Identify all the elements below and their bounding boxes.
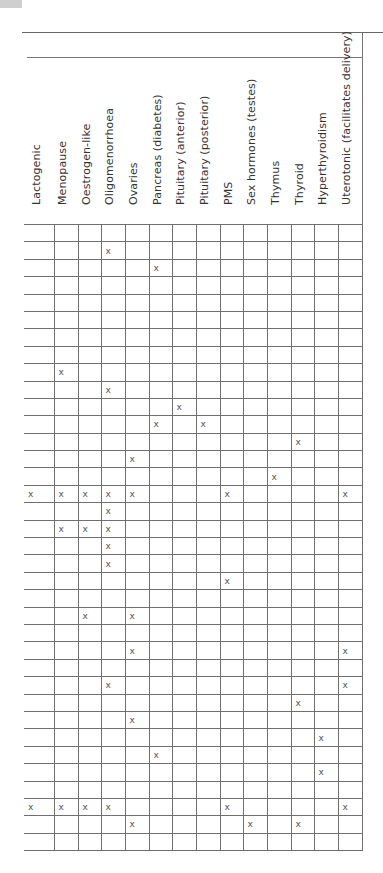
grid-cell	[267, 451, 291, 468]
grid-cell-marked: x	[78, 485, 101, 502]
grid-cell	[338, 538, 362, 555]
grid-cell	[196, 729, 220, 746]
grid-cell	[220, 468, 243, 485]
grid-cell	[149, 729, 172, 746]
grid-cell	[172, 694, 196, 711]
grid-cell	[54, 833, 78, 850]
grid-cell	[101, 624, 125, 641]
grid-cell	[314, 311, 338, 328]
grid-cell	[267, 242, 291, 259]
grid-cell	[54, 729, 78, 746]
grid-cell	[172, 485, 196, 502]
grid-cell	[291, 485, 314, 502]
grid-cell	[243, 833, 267, 850]
grid-cell	[220, 677, 243, 694]
grid-cell	[149, 277, 172, 294]
grid-cell	[243, 503, 267, 520]
grid-cell	[101, 277, 125, 294]
grid-cell	[220, 642, 243, 659]
table-row: xx	[24, 642, 362, 659]
table-row: x	[24, 451, 362, 468]
grid-cell	[149, 433, 172, 450]
grid-cell	[172, 764, 196, 781]
grid-cell	[243, 798, 267, 815]
grid-cell	[267, 433, 291, 450]
grid-cell	[24, 659, 54, 676]
grid-cell	[24, 694, 54, 711]
column-header: Oligomenorrhoea	[101, 58, 125, 224]
grid-cell	[101, 294, 125, 311]
grid-cell	[338, 607, 362, 624]
grid-cell	[101, 642, 125, 659]
grid-cell	[291, 329, 314, 346]
grid-cell	[54, 311, 78, 328]
grid-cell-marked: x	[78, 607, 101, 624]
grid-cell	[243, 572, 267, 589]
grid-cell	[196, 677, 220, 694]
grid-cell	[125, 225, 149, 242]
grid-cell	[149, 659, 172, 676]
grid-cell	[78, 242, 101, 259]
indication-grid: xxxxxxxxxxxxxxxxxxxxxxxxxxxxxxxxxxxxxxxx…	[24, 224, 363, 851]
grid-cell	[24, 520, 54, 537]
grid-cell	[54, 538, 78, 555]
grid-cell	[243, 659, 267, 676]
grid-cell	[196, 746, 220, 763]
grid-cell	[54, 259, 78, 276]
grid-cell	[267, 259, 291, 276]
grid-cell	[125, 555, 149, 572]
grid-cell-marked: x	[54, 485, 78, 502]
grid-cell	[125, 503, 149, 520]
column-header: Pancreas (diabetes)	[149, 58, 172, 224]
grid-cell	[125, 590, 149, 607]
grid-cell	[24, 294, 54, 311]
grid-cell	[196, 538, 220, 555]
grid-cell	[172, 503, 196, 520]
grid-cell	[314, 346, 338, 363]
grid-cell	[54, 746, 78, 763]
table-row	[24, 294, 362, 311]
table-row: x	[24, 468, 362, 485]
column-header-label: Thyroid	[293, 163, 306, 205]
grid-cell	[172, 572, 196, 589]
grid-cell	[24, 259, 54, 276]
grid-cell	[196, 520, 220, 537]
grid-cell-marked: x	[101, 242, 125, 259]
grid-cell	[149, 294, 172, 311]
grid-cell	[267, 798, 291, 815]
grid-cell	[172, 659, 196, 676]
grid-cell	[24, 590, 54, 607]
grid-cell	[172, 781, 196, 798]
grid-cell	[267, 746, 291, 763]
grid-cell	[196, 659, 220, 676]
grid-cell	[291, 642, 314, 659]
grid-cell	[267, 781, 291, 798]
grid-cell	[314, 833, 338, 850]
grid-cell	[78, 277, 101, 294]
table-row: xx	[24, 607, 362, 624]
grid-cell	[54, 590, 78, 607]
grid-cell	[338, 329, 362, 346]
grid-cell	[101, 572, 125, 589]
grid-cell-marked: x	[149, 259, 172, 276]
grid-cell	[338, 468, 362, 485]
column-header: Pituitary (posterior)	[196, 58, 220, 224]
grid-cell	[78, 590, 101, 607]
grid-cell	[196, 642, 220, 659]
column-header-label: Hyperthyroidism	[316, 112, 329, 205]
grid-cell	[149, 538, 172, 555]
grid-cell	[149, 572, 172, 589]
grid-cell	[172, 329, 196, 346]
grid-cell	[125, 538, 149, 555]
column-header: Hyperthyroidism	[314, 58, 338, 224]
grid-cell	[243, 694, 267, 711]
grid-cell	[338, 433, 362, 450]
grid-cell	[172, 711, 196, 728]
grid-cell	[243, 451, 267, 468]
table-row: x	[24, 242, 362, 259]
grid-cell	[172, 590, 196, 607]
table-row	[24, 277, 362, 294]
grid-cell-marked: x	[149, 746, 172, 763]
grid-cell	[78, 729, 101, 746]
grid-cell	[314, 694, 338, 711]
